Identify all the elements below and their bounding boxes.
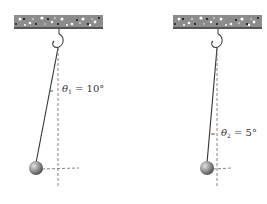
equals-sign: = bbox=[231, 127, 246, 138]
angle-label-2: θ2 = 5° bbox=[221, 127, 257, 139]
string-1 bbox=[36, 48, 58, 163]
bob-2 bbox=[200, 161, 214, 175]
bob-1 bbox=[29, 161, 43, 175]
horizontal-reference-1 bbox=[42, 168, 79, 169]
hook-icon bbox=[53, 29, 63, 47]
angle-value: 5° bbox=[246, 127, 257, 138]
angle-label-1: θ1 = 10° bbox=[62, 83, 104, 95]
pendulum-2 bbox=[173, 15, 262, 187]
pendulum-diagram bbox=[0, 0, 267, 204]
ceiling-support-2 bbox=[173, 15, 262, 29]
string-2 bbox=[207, 48, 217, 163]
equals-sign: = bbox=[72, 83, 87, 94]
pendulum-1 bbox=[14, 15, 103, 187]
angle-value: 10° bbox=[87, 83, 105, 94]
horizontal-reference-2 bbox=[213, 168, 232, 169]
ceiling-support-1 bbox=[14, 15, 103, 29]
hook-icon bbox=[212, 29, 222, 47]
